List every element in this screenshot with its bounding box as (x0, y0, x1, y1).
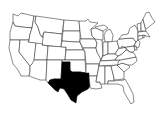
state-florida (108, 79, 134, 104)
state-kansas (65, 50, 85, 60)
state-indiana (103, 42, 108, 56)
state-utah (34, 43, 48, 60)
state-iowa (80, 39, 97, 48)
state-south-dakota (62, 31, 80, 42)
us-map (0, 0, 167, 118)
state-maine (143, 12, 155, 29)
state-wyoming (42, 32, 62, 47)
state-north-dakota (63, 20, 80, 31)
state-colorado (47, 46, 66, 60)
state-washington (13, 13, 34, 28)
